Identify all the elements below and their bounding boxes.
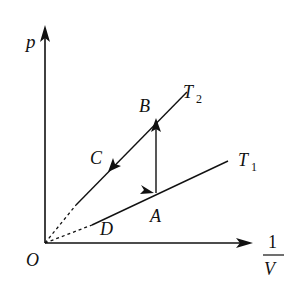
isotherm-t2 [45, 92, 187, 243]
t1-label-subscript: 1 [251, 160, 257, 174]
x-axis [45, 238, 253, 248]
arrow-b-to-c-icon [108, 158, 121, 172]
point-d-label: D [99, 219, 113, 239]
point-b-label: B [139, 96, 150, 116]
process-a-to-b [151, 118, 161, 193]
t2-label-subscript: 2 [196, 92, 202, 106]
y-axis-label: p [24, 31, 36, 52]
p-vs-inverse-v-diagram: p O 1 V T 2 T 1 B C A D [0, 0, 303, 295]
t1-label-main: T [238, 150, 250, 170]
origin-label: O [26, 250, 39, 270]
y-axis [40, 25, 50, 243]
x-axis-label-denominator: V [264, 259, 277, 279]
point-a-label: A [149, 206, 162, 226]
isotherm-t1 [45, 161, 228, 243]
point-c-label: C [90, 148, 103, 168]
arrow-d-to-a-icon [140, 185, 154, 194]
x-axis-label-numerator: 1 [268, 232, 277, 252]
t2-label-main: T [183, 82, 195, 102]
